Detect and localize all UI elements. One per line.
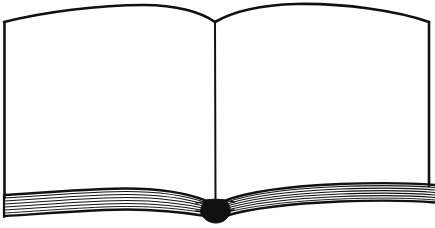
book-drawing-canvas [0, 0, 435, 228]
right-page-surface [215, 4, 429, 202]
open-book-illustration: Line drawing of an open book seen from a… [0, 0, 435, 228]
left-page-surface [4, 5, 215, 203]
spine-fold-line [215, 22, 216, 203]
